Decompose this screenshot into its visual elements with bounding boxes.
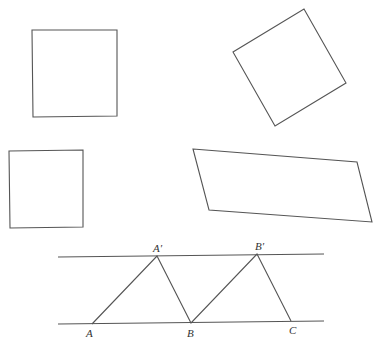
diagram-canvas: A A′ B B′ C: [0, 0, 379, 342]
upper-parallel-line: [58, 254, 324, 257]
rectangle-small: [9, 150, 83, 228]
label-a: A: [85, 327, 93, 339]
square-rotated: [233, 9, 346, 126]
label-b: B: [187, 327, 194, 339]
label-c: C: [289, 324, 297, 336]
zigzag-segments: [92, 254, 291, 324]
square-upright: [32, 30, 117, 117]
label-a-prime: A′: [152, 242, 163, 254]
parallelogram: [193, 149, 372, 222]
label-b-prime: B′: [255, 240, 265, 252]
